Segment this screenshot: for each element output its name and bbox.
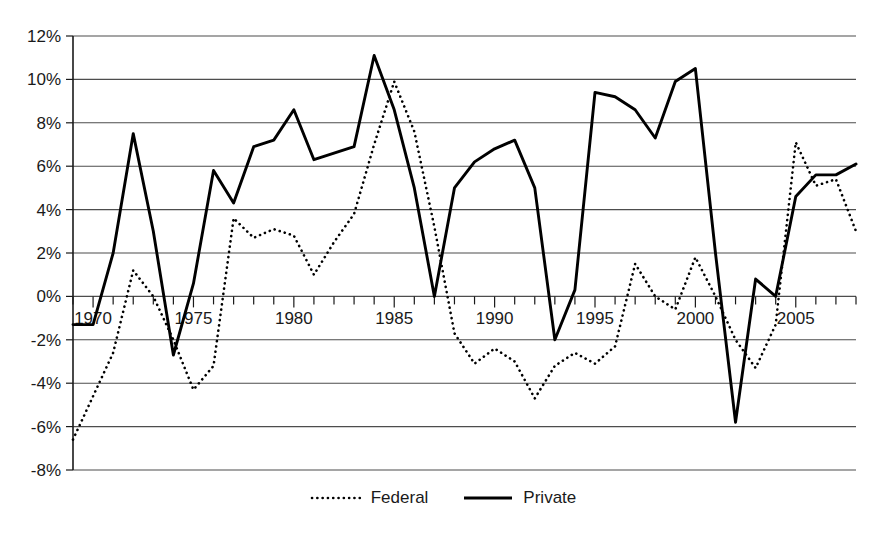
chart-container: 12%10%8%6%4%2%0%-2%-4%-6%-8% 19701975198…: [0, 0, 886, 543]
x-tick-label: 2000: [676, 309, 714, 328]
x-tick-label: 2005: [777, 309, 815, 328]
y-tick-label: -6%: [31, 418, 61, 437]
y-tick-label: 8%: [36, 114, 61, 133]
y-tick-label: 10%: [27, 70, 61, 89]
y-axis-tick-marks: [66, 36, 73, 470]
y-tick-label: 12%: [27, 27, 61, 46]
series-line-private: [73, 56, 856, 423]
y-tick-label: 6%: [36, 157, 61, 176]
x-tick-label: 1995: [576, 309, 614, 328]
y-tick-label: -8%: [31, 461, 61, 480]
legend-label-private: Private: [523, 489, 576, 506]
data-series: [73, 56, 856, 440]
series-line-federal: [73, 82, 856, 440]
y-tick-label: 4%: [36, 201, 61, 220]
legend-swatch-federal: [310, 492, 362, 504]
chart-legend: Federal Private: [0, 489, 886, 506]
line-chart: 12%10%8%6%4%2%0%-2%-4%-6%-8% 19701975198…: [0, 0, 886, 543]
y-tick-label: -2%: [31, 331, 61, 350]
x-tick-label: 1985: [375, 309, 413, 328]
legend-item-federal[interactable]: Federal: [310, 489, 429, 506]
y-axis-labels: 12%10%8%6%4%2%0%-2%-4%-6%-8%: [27, 27, 61, 480]
y-tick-label: 2%: [36, 244, 61, 263]
x-tick-label: 1990: [476, 309, 514, 328]
legend-swatch-private: [462, 492, 514, 504]
legend-item-private[interactable]: Private: [462, 489, 576, 506]
y-tick-label: -4%: [31, 374, 61, 393]
y-tick-label: 0%: [36, 287, 61, 306]
legend-label-federal: Federal: [371, 489, 429, 506]
x-tick-label: 1980: [275, 309, 313, 328]
